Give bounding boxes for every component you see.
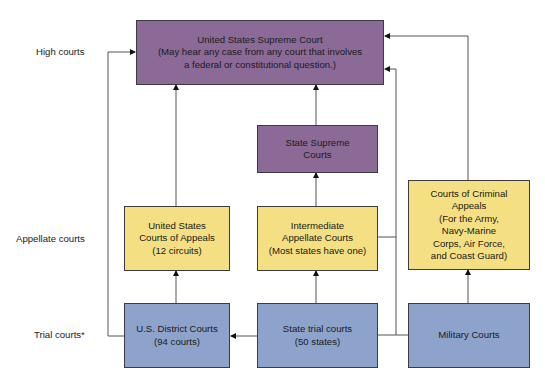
node-military-courts: Military Courts	[408, 303, 530, 368]
node-state-trial-courts: State trial courts (50 states)	[257, 303, 378, 368]
level-label-text: Appellate courts	[16, 233, 85, 244]
node-text: State trial courts (50 states)	[283, 323, 352, 348]
node-text: United States Courts of Appeals (12 circ…	[139, 220, 215, 258]
edge-district-to-supreme	[108, 52, 135, 336]
edge-state-to-supreme	[378, 69, 396, 335]
node-text: Military Courts	[438, 329, 499, 342]
node-us-courts-of-appeals: United States Courts of Appeals (12 circ…	[124, 206, 230, 271]
node-intermediate-appellate-courts: Intermediate Appellate Courts (Most stat…	[257, 206, 378, 271]
level-label-high: High courts	[36, 46, 85, 57]
level-label-appellate: Appellate courts	[16, 233, 85, 244]
level-label-text: Trial courts*	[34, 329, 85, 340]
node-state-supreme-courts: State Supreme Courts	[257, 125, 378, 173]
node-text: State Supreme Courts	[286, 137, 350, 162]
level-label-trial: Trial courts*	[34, 329, 85, 340]
node-us-supreme-court: United States Supreme Court (May hear an…	[136, 20, 384, 85]
node-courts-of-criminal-appeals: Courts of Criminal Appeals (For the Army…	[408, 180, 530, 270]
edge-criminal-appeals-to-supreme	[385, 36, 468, 180]
node-text: Courts of Criminal Appeals (For the Army…	[431, 188, 508, 263]
node-text: U.S. District Courts (94 courts)	[136, 323, 218, 348]
node-text: Intermediate Appellate Courts (Most stat…	[269, 220, 367, 258]
level-label-text: High courts	[36, 46, 85, 57]
node-text: United States Supreme Court (May hear an…	[158, 34, 362, 72]
node-us-district-courts: U.S. District Courts (94 courts)	[124, 303, 230, 368]
